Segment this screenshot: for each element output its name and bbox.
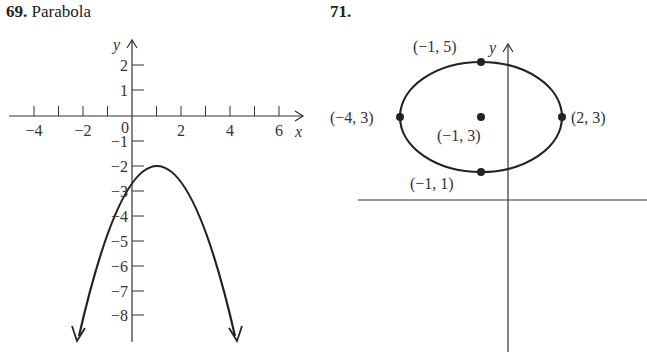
y-tick-label: −3 xyxy=(111,183,128,200)
x-tick-label: −4 xyxy=(25,122,42,139)
y-tick-label: −1 xyxy=(111,133,128,150)
x-axis-label: x xyxy=(294,123,302,140)
point-bottom-vertex xyxy=(477,168,485,176)
y-tick-label: −2 xyxy=(111,158,128,175)
y-tick-label: 2 xyxy=(120,57,128,74)
y-axis-label: y xyxy=(487,39,497,57)
y-tick-label: −6 xyxy=(111,258,128,275)
parabola-graph xyxy=(9,40,303,342)
y-tick-label: −7 xyxy=(111,283,128,300)
label-top-vertex: (−1, 5) xyxy=(413,38,457,56)
x-tick-label: 4 xyxy=(226,122,234,139)
y-ticks xyxy=(132,65,144,315)
figures: y x −4 −2 0 2 4 6 2 1 −1 −2 −3 −4 −5 −6 … xyxy=(0,0,647,359)
label-right-vertex: (2, 3) xyxy=(571,109,606,127)
label-center: (−1, 3) xyxy=(437,127,481,145)
point-center xyxy=(477,113,485,121)
parabola-curve xyxy=(79,166,235,336)
x-ticks xyxy=(34,106,279,116)
y-tick-label: −5 xyxy=(111,233,128,250)
y-axis-label: y xyxy=(111,36,121,54)
x-tick-label: −2 xyxy=(74,122,91,139)
point-top-vertex xyxy=(477,58,485,66)
y-tick-label: −4 xyxy=(111,208,128,225)
parabola-labels: y x −4 −2 0 2 4 6 2 1 −1 −2 −3 −4 −5 −6 … xyxy=(25,36,302,324)
point-left-vertex xyxy=(396,113,404,121)
x-tick-label: 2 xyxy=(177,122,185,139)
label-bottom-vertex: (−1, 1) xyxy=(410,175,454,193)
ellipse-graph xyxy=(358,44,647,352)
label-left-vertex: (−4, 3) xyxy=(330,109,374,127)
y-tick-label: −8 xyxy=(111,307,128,324)
y-tick-label: 1 xyxy=(120,82,128,99)
x-tick-label: 6 xyxy=(275,122,283,139)
point-right-vertex xyxy=(558,113,566,121)
